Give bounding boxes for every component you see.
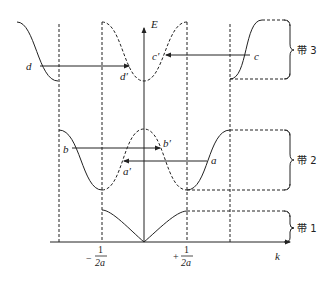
svg-text:−: − — [86, 253, 92, 264]
point-d: d — [26, 60, 32, 72]
point-c: c — [254, 50, 259, 62]
band-1-curves — [102, 210, 290, 242]
band-1-label: 带 1 — [297, 223, 317, 234]
svg-text:1: 1 — [98, 244, 103, 255]
band-diagram: E k d d′ c′ c b b′ a′ a 带 3 带 2 带 1 − 1 … — [0, 0, 334, 281]
translation-arrows — [40, 55, 250, 161]
band-2-label: 带 2 — [297, 155, 317, 166]
e-axis-label: E — [150, 18, 158, 30]
tick-right: + 1 2a — [173, 244, 193, 268]
svg-text:1: 1 — [184, 244, 189, 255]
point-c-prime: c′ — [152, 50, 160, 62]
tick-left: − 1 2a — [86, 244, 107, 268]
svg-text:+: + — [173, 251, 179, 262]
point-a: a — [211, 154, 217, 166]
band-2-curves — [59, 129, 290, 190]
k-axis-label: k — [275, 250, 281, 262]
svg-text:2a: 2a — [181, 257, 191, 268]
svg-text:2a: 2a — [95, 257, 105, 268]
point-a-prime: a′ — [123, 165, 132, 177]
point-d-prime: d′ — [120, 70, 129, 82]
band-3-label: 带 3 — [297, 45, 317, 56]
band-braces — [284, 20, 294, 242]
point-b-prime: b′ — [163, 137, 172, 149]
point-b: b — [63, 143, 69, 155]
